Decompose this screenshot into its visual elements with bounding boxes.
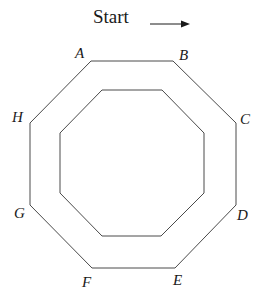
inner-octagon <box>60 90 204 236</box>
start-label: Start <box>93 6 130 27</box>
vertex-label-c: C <box>240 111 251 127</box>
vertex-label-f: F <box>81 274 92 290</box>
vertex-label-e: E <box>172 272 182 288</box>
vertex-label-d: D <box>236 207 248 223</box>
octagon-track-diagram: Start A B C D E F G H <box>0 0 265 298</box>
outer-octagon <box>30 61 236 268</box>
vertex-label-a: A <box>74 45 85 61</box>
vertex-label-b: B <box>179 47 188 63</box>
right-arrow-icon <box>150 21 190 28</box>
vertex-label-h: H <box>11 109 24 125</box>
vertex-label-g: G <box>14 205 25 221</box>
